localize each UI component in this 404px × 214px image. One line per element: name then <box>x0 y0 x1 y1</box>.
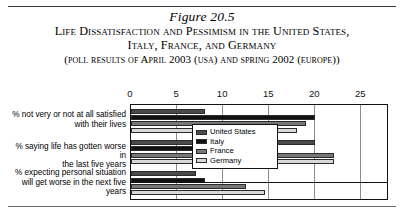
figure-subtitle: (poll results of April 2003 (usa) and sp… <box>0 52 404 66</box>
legend-item-france: France <box>196 147 274 156</box>
bar-france-group-3 <box>131 184 246 189</box>
x-tick-0: 0 <box>127 88 132 99</box>
bar-chart: 0510152025 % not very or not at all sati… <box>8 86 396 208</box>
legend-label: France <box>210 147 234 155</box>
x-tick-20: 20 <box>309 88 320 99</box>
category-label-3-line-3: years <box>8 187 126 196</box>
chart-legend: United StatesItalyFranceGermany <box>192 124 278 169</box>
legend-item-united-states: United States <box>196 128 274 137</box>
x-axis-tick-labels: 0510152025 <box>8 86 396 104</box>
bar-united-states-group-3 <box>131 171 196 176</box>
category-label-2: % saying life has gotten worse inthe las… <box>8 142 126 170</box>
category-label-3-line-1: % expecting personal situation <box>8 168 126 177</box>
legend-swatch-icon-italy <box>196 139 207 144</box>
category-labels: % not very or not at all satisfiedwith t… <box>8 104 128 200</box>
category-label-1: % not very or not at all satisfiedwith t… <box>8 110 126 129</box>
x-tick-25: 25 <box>355 88 366 99</box>
axis-baseline <box>130 182 388 183</box>
legend-swatch-icon-united-states <box>196 130 207 135</box>
legend-label: United States <box>210 128 256 136</box>
bar-united-states-group-1 <box>131 109 205 114</box>
legend-swatch-icon-germany <box>196 158 207 163</box>
legend-swatch-icon-france <box>196 149 207 154</box>
bar-germany-group-3 <box>131 190 265 195</box>
x-tick-10: 10 <box>217 88 228 99</box>
bar-italy-group-1 <box>131 115 315 120</box>
bottom-divider <box>8 206 396 207</box>
category-label-1-line-1: % not very or not at all satisfied <box>8 110 126 119</box>
top-divider <box>8 6 396 7</box>
x-tick-15: 15 <box>263 88 274 99</box>
legend-label: Italy <box>210 138 224 146</box>
figure-number: Figure 20.5 <box>0 9 404 24</box>
category-label-1-line-2: with their lives <box>8 120 126 129</box>
legend-item-germany: Germany <box>196 156 274 165</box>
x-tick-5: 5 <box>173 88 178 99</box>
figure-page: Figure 20.5 Life Dissatisfaction and Pes… <box>0 0 404 214</box>
category-label-3: % expecting personal situationwill get w… <box>8 168 126 196</box>
plot-area: % not very or not at all satisfiedwith t… <box>8 104 396 204</box>
figure-title-line-2: Italy, France, and Germany <box>0 38 404 52</box>
category-label-2-line-1: % saying life has gotten worse in <box>8 142 126 161</box>
legend-item-italy: Italy <box>196 137 274 146</box>
legend-label: Germany <box>210 157 241 165</box>
figure-title-line-1: Life Dissatisfaction and Pessimism in th… <box>0 24 404 38</box>
figure-caption: Figure 20.5 Life Dissatisfaction and Pes… <box>0 9 404 66</box>
category-label-3-line-2: will get worse in the next five <box>8 178 126 187</box>
